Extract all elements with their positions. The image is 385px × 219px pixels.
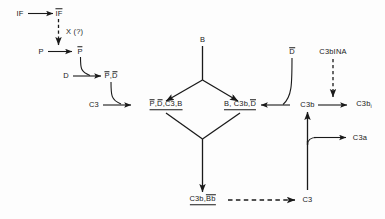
node-c3b-bb: C3b,Bb xyxy=(189,195,215,205)
curve-pbar-to-pdbar xyxy=(81,57,91,76)
node-complex-right-pre: B, C3b, xyxy=(224,99,250,108)
pathway-arrows-layer: Pbar : vertical dashed --> xyxy=(0,0,385,219)
node-d: D xyxy=(63,72,69,80)
node-complex-left-p: P xyxy=(150,100,155,108)
node-p: P xyxy=(38,48,43,56)
node-b-top: B xyxy=(200,36,205,44)
node-d-bar-right-text: D xyxy=(289,48,295,56)
node-if-activated: IF xyxy=(55,10,62,18)
node-c3b-bb-post: Bb xyxy=(206,195,216,203)
node-c3bi: C3bi xyxy=(356,100,372,110)
curve-c3-to-c3a xyxy=(308,138,318,146)
pathway-diagram: Pbar : vertical dashed --> xyxy=(0,0,385,219)
node-complex-right-d: D xyxy=(250,100,256,108)
node-c3bina: C3bINA xyxy=(319,48,346,56)
node-p-bar-text: P xyxy=(77,48,82,56)
edge-diamond-lower-right xyxy=(203,113,241,139)
node-complex-left-rest: ,C3,B xyxy=(163,99,183,108)
node-x-unknown: X (?) xyxy=(66,28,83,36)
node-complex-right: B, C3b,D xyxy=(224,100,256,110)
node-c3bi-base: C3b xyxy=(356,99,370,108)
node-complex-left: P,D,C3,B xyxy=(150,100,183,110)
node-if: IF xyxy=(16,10,23,18)
node-p-bar: P xyxy=(77,48,82,56)
edge-diamond-upper-left xyxy=(166,80,203,101)
node-c3-bottom: C3 xyxy=(303,196,313,204)
edge-diamond-lower-left xyxy=(166,113,203,139)
curve-pdbar-to-complex-left xyxy=(111,82,121,104)
node-c3bi-subscript: i xyxy=(371,103,372,109)
node-c3-left: C3 xyxy=(89,101,99,109)
node-pbar-dbar-p: P xyxy=(104,72,109,80)
node-if-activated-f: F xyxy=(58,9,63,18)
node-pbar-dbar: P,D xyxy=(104,72,117,80)
edge-diamond-upper-right xyxy=(203,80,239,101)
curve-dbar-to-complex-right xyxy=(283,58,292,105)
node-c3b: C3b xyxy=(300,101,314,109)
node-d-bar-right: D xyxy=(289,48,295,56)
node-pbar-dbar-d: D xyxy=(112,72,118,80)
node-c3a: C3a xyxy=(353,134,367,142)
node-c3b-bb-pre: C3b, xyxy=(189,194,206,203)
node-complex-left-d: D xyxy=(157,100,163,108)
